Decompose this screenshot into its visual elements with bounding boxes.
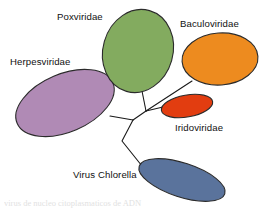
branch-poxviridae <box>142 91 146 111</box>
taxon-label-iridoviridae: Iridoviridae <box>175 122 223 133</box>
phylogenetic-tree-figure: Herpesviridae Poxviridae Baculoviridae I… <box>0 0 265 211</box>
taxon-ellipse-baculoviridae[interactable] <box>180 30 259 87</box>
branch-herpesviridae <box>110 116 133 120</box>
branch-internal-node-link <box>133 111 146 120</box>
taxon-ellipse-iridoviridae[interactable] <box>159 91 214 122</box>
taxon-label-poxviridae: Poxviridae <box>57 11 103 22</box>
figure-caption-partial: virus de nucleo citoplasmaticos de ADN <box>4 199 141 208</box>
taxon-label-virus-chlorella: Virus Chlorella <box>73 169 137 180</box>
tree-canvas: Herpesviridae Poxviridae Baculoviridae I… <box>0 0 265 211</box>
caption-strip: virus de nucleo citoplasmaticos de ADN <box>0 199 265 211</box>
taxon-label-herpesviridae: Herpesviridae <box>10 56 71 67</box>
taxon-label-baculoviridae: Baculoviridae <box>180 18 239 29</box>
